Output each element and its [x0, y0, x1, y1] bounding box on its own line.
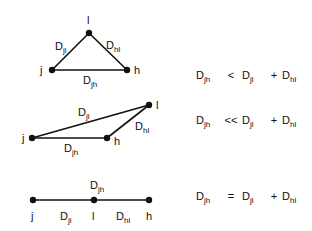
node-j	[29, 135, 35, 141]
label-node-h: h	[134, 64, 140, 76]
eq-term1: Djl	[242, 69, 266, 84]
eq-term2: Dhl	[282, 69, 306, 84]
eq-term2: Dhl	[282, 190, 306, 205]
eq-lhs: Djh	[196, 114, 220, 129]
node-l	[146, 102, 152, 108]
label-node-l: l	[87, 14, 89, 26]
label-node-j: j	[30, 210, 33, 222]
label-edge-jl: Djl	[60, 210, 72, 225]
label-node-l: l	[92, 210, 94, 222]
edge-jl	[32, 105, 149, 138]
label-node-j: j	[39, 64, 42, 76]
flat-triangle-diagram: j l h Djl Dhl Djh	[21, 99, 158, 157]
node-h	[124, 67, 130, 73]
label-edge-hl: Dhl	[135, 120, 149, 135]
label-node-h: h	[146, 210, 152, 222]
label-edge-jh: Djh	[64, 142, 78, 157]
eq-op-plus: +	[266, 69, 282, 81]
node-j	[30, 197, 36, 203]
eq-term1: Djl	[242, 114, 266, 129]
triangle-diagram: l j h Djl Dhl Djh	[39, 14, 140, 89]
equation-triangle: Djh < Djl + Dhl	[196, 69, 306, 84]
label-node-h: h	[114, 135, 120, 147]
label-edge-jh: Djh	[83, 74, 97, 89]
eq-lhs: Djh	[196, 190, 220, 205]
node-l	[86, 30, 92, 36]
label-edge-jh: Djh	[90, 179, 104, 194]
collinear-diagram: Djh j Djl l Dhl h	[30, 179, 152, 225]
label-edge-jl: Djl	[55, 40, 67, 55]
label-node-j: j	[21, 132, 24, 144]
node-j	[49, 67, 55, 73]
eq-term2: Dhl	[282, 114, 306, 129]
eq-op-plus: +	[266, 114, 282, 126]
equation-collinear: Djh = Djl + Dhl	[196, 190, 306, 205]
label-edge-jl: Djl	[78, 106, 90, 121]
node-h	[104, 135, 110, 141]
equation-flat-triangle: Djh << Djl + Dhl	[196, 114, 306, 129]
eq-term1: Djl	[242, 190, 266, 205]
eq-op-equals: =	[220, 190, 242, 202]
eq-op-much-less: <<	[220, 114, 242, 126]
eq-op-less: <	[220, 69, 242, 81]
node-h	[146, 197, 152, 203]
label-node-l: l	[156, 99, 158, 111]
eq-op-plus: +	[266, 190, 282, 202]
eq-lhs: Djh	[196, 69, 220, 84]
label-edge-hl: Dhl	[116, 210, 130, 225]
node-l	[91, 197, 97, 203]
